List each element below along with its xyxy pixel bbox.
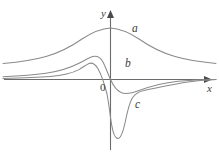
plot-canvas (0, 0, 219, 154)
curve-a-label: a (132, 23, 138, 35)
y-axis-label: y (101, 8, 106, 19)
figure-container: y x 0 a b c (0, 0, 219, 154)
curve-b (3, 56, 216, 93)
curve-a (3, 28, 216, 64)
curve-c-label: c (135, 99, 140, 111)
y-axis-arrowhead (107, 10, 114, 18)
curve-b-label: b (125, 58, 131, 70)
x-axis-label: x (207, 83, 212, 94)
origin-label: 0 (100, 82, 106, 93)
